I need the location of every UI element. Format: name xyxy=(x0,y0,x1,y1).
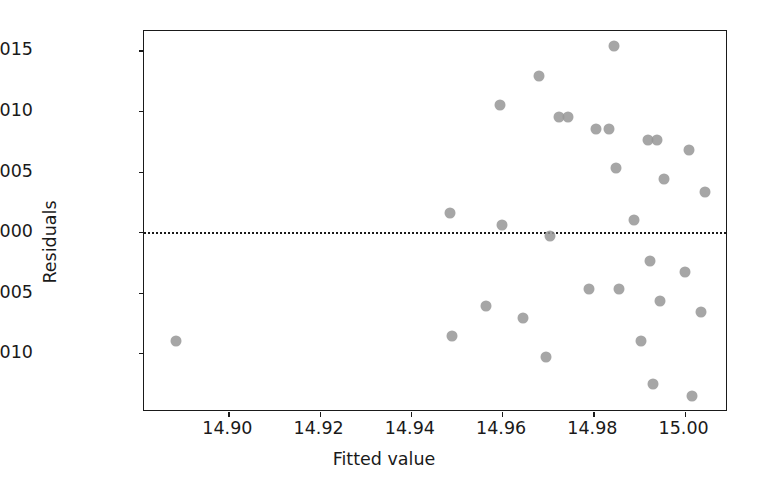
data-point xyxy=(444,207,455,218)
y-tick-label: 0.010 xyxy=(0,100,33,120)
y-tick xyxy=(139,172,144,173)
x-tick xyxy=(593,412,594,417)
data-point xyxy=(481,300,492,311)
x-tick xyxy=(228,412,229,417)
x-tick-label: 14.92 xyxy=(294,418,344,438)
data-point xyxy=(604,124,615,135)
data-point xyxy=(540,351,551,362)
x-tick xyxy=(685,412,686,417)
x-tick-label: 14.94 xyxy=(385,418,435,438)
x-tick-label: 15.00 xyxy=(659,418,709,438)
data-point xyxy=(611,162,622,173)
data-point xyxy=(636,336,647,347)
x-tick xyxy=(502,412,503,417)
y-tick xyxy=(139,111,144,112)
data-point xyxy=(170,336,181,347)
data-point xyxy=(497,219,508,230)
y-tick xyxy=(139,293,144,294)
x-tick-label: 14.90 xyxy=(202,418,252,438)
data-point xyxy=(645,256,656,267)
y-tick-label: 0.005 xyxy=(0,161,33,181)
data-point xyxy=(494,99,505,110)
x-tick xyxy=(320,412,321,417)
data-point xyxy=(590,124,601,135)
data-point xyxy=(679,267,690,278)
zero-reference-line xyxy=(144,232,726,234)
data-point xyxy=(517,313,528,324)
data-point xyxy=(545,230,556,241)
y-tick xyxy=(139,232,144,233)
y-tick-label: −0.005 xyxy=(0,282,33,302)
data-point xyxy=(563,112,574,123)
x-axis-title: Fitted value xyxy=(0,449,768,469)
data-point xyxy=(659,173,670,184)
y-axis-title: Residuals xyxy=(40,200,60,283)
residuals-vs-fitted-plot: Residuals Fitted value 14.9014.9214.9414… xyxy=(0,0,768,484)
x-tick-label: 14.96 xyxy=(476,418,526,438)
y-tick-label: 0.015 xyxy=(0,39,33,59)
y-tick-label: 0.000 xyxy=(0,221,33,241)
x-tick-label: 14.98 xyxy=(567,418,617,438)
data-point xyxy=(647,378,658,389)
plot-area xyxy=(143,30,727,411)
data-point xyxy=(684,144,695,155)
data-point xyxy=(654,296,665,307)
data-point xyxy=(695,307,706,318)
y-tick xyxy=(139,50,144,51)
data-point xyxy=(583,284,594,295)
data-point xyxy=(686,390,697,401)
y-tick xyxy=(139,353,144,354)
data-point xyxy=(608,40,619,51)
data-point xyxy=(446,331,457,342)
data-point xyxy=(533,70,544,81)
data-point xyxy=(613,284,624,295)
data-point xyxy=(700,187,711,198)
x-tick xyxy=(411,412,412,417)
y-tick-label: −0.010 xyxy=(0,342,33,362)
data-point xyxy=(629,214,640,225)
data-point xyxy=(652,135,663,146)
